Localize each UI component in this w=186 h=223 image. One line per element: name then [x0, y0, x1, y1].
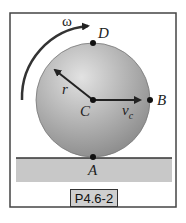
- point-D-label: D: [98, 26, 109, 41]
- velocity-subscript: c: [129, 110, 133, 121]
- velocity-label: vc: [122, 103, 133, 121]
- point-B: [147, 97, 153, 103]
- point-C-label: C: [80, 104, 90, 119]
- radius-label: r: [62, 82, 68, 97]
- point-C: [90, 97, 96, 103]
- figure-caption: P4.6-2: [70, 189, 118, 207]
- velocity-symbol: v: [122, 102, 129, 118]
- point-B-label: B: [157, 93, 166, 108]
- omega-label: ω: [62, 14, 72, 29]
- point-D: [90, 40, 96, 46]
- point-A-label: A: [88, 163, 97, 178]
- point-A: [90, 154, 96, 160]
